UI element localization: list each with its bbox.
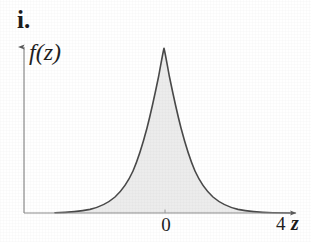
x-axis-label: z xyxy=(291,212,299,234)
x-axis-tick-label-zero: 0 xyxy=(159,214,173,236)
normal-distribution-plot xyxy=(0,0,311,242)
figure-container: i. f(z) 0 4 z xyxy=(0,0,311,242)
y-axis-label: f(z) xyxy=(29,39,61,65)
x-axis-tick-label-four: 4 xyxy=(276,213,286,235)
